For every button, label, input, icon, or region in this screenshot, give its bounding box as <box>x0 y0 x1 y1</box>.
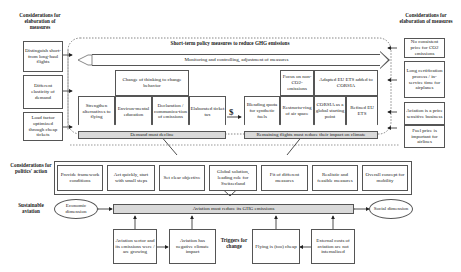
left-consideration-2: Different elasticity of demand <box>23 75 63 109</box>
right-consideration-4: Fuel price is important for airlines <box>404 125 445 148</box>
politics-item-6: Realistic and feasible measures <box>312 165 358 191</box>
change-thinking-box: Change of thinking to change behavior <box>115 70 189 96</box>
main-goal-bar: Aviation must reduce its GHG emissions <box>113 204 354 214</box>
supply-outcome: Remaining flights must reduce their impa… <box>244 131 378 139</box>
supply-measure-1: Blending quota for synthetic fuels <box>244 96 280 132</box>
demand-measure-3: Declaration / communica-tion of emission… <box>152 96 189 132</box>
social-dimension: Social dimension <box>369 199 413 219</box>
policy-title: Short-term policy measures to reduce GHG… <box>150 41 310 47</box>
politics-item-1: Provide framework conditions <box>57 165 103 191</box>
right-consideration-3: Aviation is a price sensitive business <box>404 102 445 125</box>
non-co2-box: Focus on non-CO2-emissions <box>280 70 314 96</box>
politics-item-4: Global solution, leading role for Switze… <box>209 165 257 191</box>
monitoring-label: Monitoring and controlling, adjustment o… <box>92 55 381 65</box>
politics-item-3: Set clear objective <box>159 165 205 191</box>
right-consideration-2: Long certification process / in-service … <box>404 61 445 98</box>
supply-measure-3: CORSIA as a global starting point <box>314 96 346 132</box>
trigger-3: Flying is (too) cheap <box>252 229 300 264</box>
right-consideration-1: No consistent price for CO2 emissions <box>404 38 445 58</box>
demand-outcome: Demand must decline <box>78 131 226 139</box>
left-consideration-1: Distinguish short- from long-haul flight… <box>23 41 63 72</box>
trigger-4: External costs of aviation are not inter… <box>311 229 355 264</box>
politics-item-7: Overall concept for mobility <box>362 165 408 191</box>
left-column-title: Considerations for elaboration of measur… <box>14 13 66 31</box>
supply-measure-4: Refined EU ETS <box>346 96 378 132</box>
politics-item-5: Fit of different measures <box>261 165 308 191</box>
demand-measure-4: Elaborated ticket tax <box>189 96 226 132</box>
triggers-title: Triggers for change <box>219 238 249 250</box>
supply-measure-2: Restructu-ring of air space <box>280 96 314 132</box>
trigger-2: Aviation has negative climate impact <box>169 229 216 264</box>
sustainable-title: Sustainable aviation <box>10 203 52 215</box>
economic-dimension: Economic dimension <box>54 199 98 219</box>
demand-measure-2: Environ-mental education <box>115 96 152 132</box>
demand-measure-1: Strengthen alternatives to flying <box>78 96 115 132</box>
left-consideration-3: Load factor optimized through cheap tick… <box>23 112 63 141</box>
politics-title: Considerations for politics' action <box>6 163 56 175</box>
politics-item-2: Act quickly, start with small steps <box>107 165 155 191</box>
dollar-icon: $ <box>229 107 234 117</box>
trigger-1: Aviation sector and its emissions were /… <box>113 229 157 264</box>
adapted-eu-ets-box: Adapted EU ETS added to CORSIA <box>314 70 378 96</box>
right-column-title: Considerations for elaboration of measur… <box>396 13 456 25</box>
monitoring-arrowhead-fill <box>380 52 388 68</box>
